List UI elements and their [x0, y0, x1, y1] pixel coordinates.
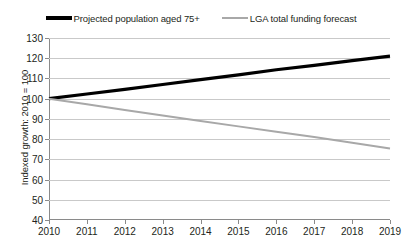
chart-legend: Projected population aged 75+ LGA total … [0, 9, 402, 27]
x-tick-mark [163, 220, 164, 224]
y-tick-label: 80 [32, 134, 43, 145]
y-tick-label: 130 [26, 33, 43, 44]
x-tick-label: 2010 [38, 226, 60, 237]
line-chart: Projected population aged 75+ LGA total … [0, 0, 402, 250]
x-tick-label: 2019 [379, 226, 401, 237]
y-tick-label: 100 [26, 93, 43, 104]
x-tick-label: 2013 [152, 226, 174, 237]
y-tick-label: 120 [26, 53, 43, 64]
legend-item-lga-funding: LGA total funding forecast [222, 13, 357, 24]
series-line [49, 56, 390, 98]
x-tick-label: 2017 [303, 226, 325, 237]
x-tick-mark [390, 220, 391, 224]
legend-swatch-black-line-icon [46, 16, 72, 20]
legend-swatch-grey-line-icon [222, 17, 248, 19]
y-tick-label: 110 [27, 73, 43, 84]
x-tick-label: 2011 [76, 226, 98, 237]
y-tick-label: 40 [32, 215, 43, 226]
x-tick-label: 2018 [341, 226, 363, 237]
y-tick-label: 60 [32, 174, 43, 185]
x-tick-mark [314, 220, 315, 224]
x-tick-label: 2016 [265, 226, 287, 237]
y-tick-label: 90 [32, 113, 43, 124]
plot-area: 130120110100908070605040 201020112012201… [49, 38, 390, 220]
series-lines [49, 38, 390, 220]
y-axis-title: Indexed growth: 2010 = 100 [19, 43, 30, 213]
x-tick-mark [238, 220, 239, 224]
y-tick-label: 70 [32, 154, 43, 165]
y-tick-label: 50 [32, 194, 43, 205]
x-tick-mark [49, 220, 50, 224]
x-tick-label: 2015 [227, 226, 249, 237]
legend-label-lga-funding: LGA total funding forecast [250, 13, 357, 24]
x-tick-mark [201, 220, 202, 224]
legend-item-projected-population: Projected population aged 75+ [46, 13, 200, 24]
x-tick-mark [125, 220, 126, 224]
x-tick-label: 2014 [189, 226, 211, 237]
x-tick-mark [276, 220, 277, 224]
x-tick-mark [87, 220, 88, 224]
x-tick-mark [352, 220, 353, 224]
legend-label-projected-population: Projected population aged 75+ [74, 13, 200, 24]
series-line [49, 99, 390, 149]
x-tick-label: 2012 [114, 226, 136, 237]
